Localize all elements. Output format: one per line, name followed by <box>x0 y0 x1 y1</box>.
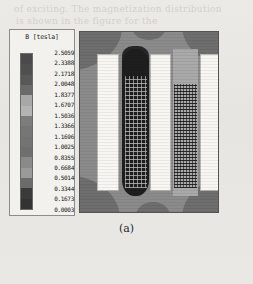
colorbar-legend: B [tesla] 2.50592.33882.17182.00481.8377… <box>9 29 75 216</box>
colorbar-tick-0: 2.5059 <box>36 50 76 56</box>
figure-page: of exciting. The magnetization distribut… <box>0 0 253 284</box>
air-slot-3 <box>200 54 219 191</box>
colorbar-band-9 <box>21 147 32 157</box>
background-text-line-1: of exciting. The magnetization distribut… <box>14 4 222 14</box>
contour-lobe-top-middle <box>132 31 166 40</box>
colorbar-band-12 <box>21 178 32 188</box>
colorbar-tick-2: 2.1718 <box>36 71 76 77</box>
colorbar-tick-11: 0.6684 <box>36 165 76 171</box>
colorbar-band-8 <box>21 137 32 147</box>
colorbar-gradient <box>20 53 33 210</box>
colorbar-band-13 <box>21 188 32 198</box>
colorbar-tick-3: 2.0048 <box>36 81 76 87</box>
colorbar-band-14 <box>21 199 32 209</box>
colorbar-tick-8: 1.1696 <box>36 134 76 140</box>
colorbar-tick-12: 0.5014 <box>36 175 76 181</box>
background-text-line-2: is shown in the figure for the <box>16 16 158 26</box>
air-slot-1 <box>97 54 119 191</box>
colorbar-band-6 <box>21 116 32 126</box>
colorbar-band-0 <box>21 54 32 64</box>
legend-body: 2.50592.33882.17182.00481.83771.67071.50… <box>10 50 74 214</box>
colorbar-tick-4: 1.8377 <box>36 92 76 98</box>
contour-lobe-bottom-middle <box>136 202 170 213</box>
field-region <box>80 32 218 212</box>
figure-caption: (a) <box>0 222 253 235</box>
colorbar-tick-9: 1.0025 <box>36 144 76 150</box>
left-winding-mesh <box>125 76 147 188</box>
colorbar-tick-labels: 2.50592.33882.17182.00481.83771.67071.50… <box>36 50 76 213</box>
colorbar-band-4 <box>21 95 32 105</box>
colorbar-tick-1: 2.3388 <box>36 60 76 66</box>
colorbar-tick-5: 1.6707 <box>36 102 76 108</box>
colorbar-band-7 <box>21 126 32 136</box>
colorbar-tick-14: 0.1673 <box>36 196 76 202</box>
colorbar-band-3 <box>21 85 32 95</box>
colorbar-band-5 <box>21 106 32 116</box>
colorbar-band-10 <box>21 157 32 167</box>
colorbar-tick-7: 1.3366 <box>36 123 76 129</box>
colorbar-tick-15: 0.0003 <box>36 207 76 213</box>
colorbar-band-2 <box>21 75 32 85</box>
right-winding-mesh <box>174 84 197 188</box>
field-contour-plot <box>79 31 219 213</box>
colorbar-band-11 <box>21 168 32 178</box>
colorbar-tick-10: 0.8355 <box>36 155 76 161</box>
colorbar-tick-13: 0.3344 <box>36 186 76 192</box>
air-slot-2 <box>150 54 171 191</box>
legend-title: B [tesla] <box>10 33 74 41</box>
colorbar-band-1 <box>21 64 32 74</box>
colorbar-tick-6: 1.5036 <box>36 113 76 119</box>
